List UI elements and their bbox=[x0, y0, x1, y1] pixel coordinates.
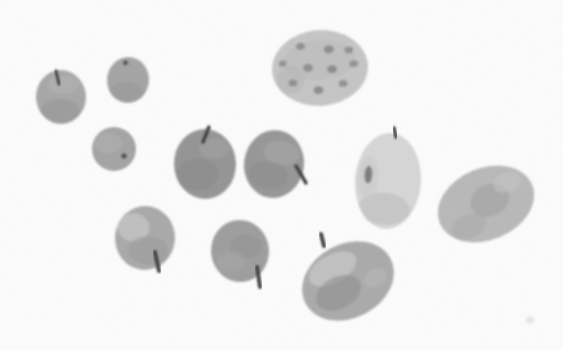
paper-grain-texture bbox=[0, 0, 563, 350]
illustration-canvas bbox=[0, 0, 563, 350]
watercolor-fruits-illustration bbox=[0, 0, 563, 350]
